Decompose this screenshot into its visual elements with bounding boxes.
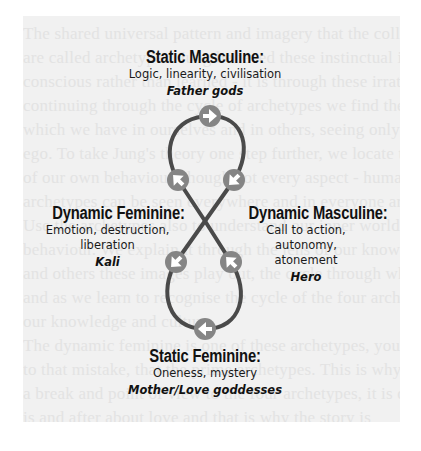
static-masculine-archetype: Father gods — [105, 83, 305, 99]
static-masculine-block: Static Masculine: Logic, linearity, civi… — [105, 47, 305, 99]
dynamic-feminine-archetype: Kali — [40, 254, 175, 270]
node-upper-left — [167, 169, 189, 191]
static-masculine-heading: Static Masculine: — [123, 47, 287, 67]
dynamic-feminine-heading: Dynamic Feminine: — [52, 203, 163, 223]
node-bottom — [194, 318, 216, 340]
node-upper-right — [223, 169, 245, 191]
cycle-path-bottom-loop — [167, 221, 241, 329]
dynamic-feminine-block: Dynamic Feminine: Emotion, destruction, … — [40, 203, 175, 270]
dynamic-masculine-heading: Dynamic Masculine: — [249, 203, 364, 223]
dynamic-masculine-archetype: Hero — [236, 269, 376, 285]
static-feminine-description: Oneness, mystery — [105, 366, 305, 381]
dynamic-masculine-description-line1: Call to action, autonomy, — [236, 223, 376, 253]
archetype-cycle-diagram: Static Masculine: Logic, linearity, civi… — [0, 0, 421, 451]
node-top — [199, 105, 221, 127]
dynamic-masculine-block: Dynamic Masculine: Call to action, auton… — [236, 203, 376, 285]
dynamic-masculine-description-line2: atonement — [236, 253, 376, 268]
dynamic-feminine-description-line1: Emotion, destruction, — [40, 223, 175, 238]
static-masculine-description: Logic, linearity, civilisation — [105, 67, 305, 82]
static-feminine-block: Static Feminine: Oneness, mystery Mother… — [105, 346, 305, 398]
static-feminine-archetype: Mother/Love goddesses — [105, 382, 305, 398]
static-feminine-heading: Static Feminine: — [123, 346, 287, 366]
dynamic-feminine-description-line2: liberation — [40, 238, 175, 253]
